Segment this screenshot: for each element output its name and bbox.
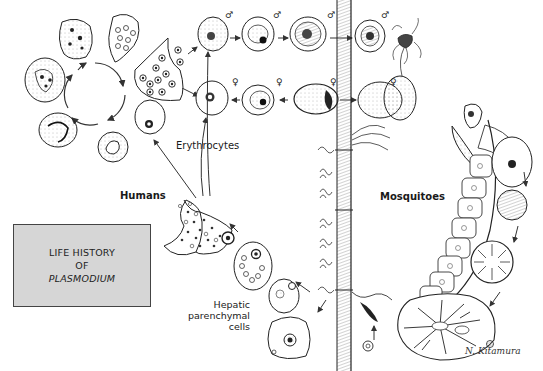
mosquito-stomach	[360, 48, 532, 360]
hepatic-label-line2: parenchymal	[186, 310, 250, 321]
erythrocytes-label: Erythrocytes	[176, 140, 239, 151]
male-symbol-4: ♂	[381, 10, 389, 20]
female-symbol-3: ♀	[330, 77, 337, 87]
hepatic-label-line3: cells	[186, 321, 250, 332]
erythrocytic-cycle	[25, 14, 139, 162]
artist-signature: N. Kitamura	[465, 346, 521, 356]
hepatic-label-line1: Hepatic	[186, 299, 250, 310]
female-symbol-2: ♀	[276, 77, 283, 87]
humans-label: Humans	[120, 190, 166, 201]
hepatic-cells-label: Hepatic parenchymal cells	[186, 299, 250, 332]
title-line-1: LIFE HISTORY	[49, 246, 115, 259]
title-box: LIFE HISTORY OF PLASMODIUM	[13, 224, 151, 307]
female-gametocyte-row	[196, 81, 402, 118]
gut-wall	[318, 0, 392, 371]
life-cycle-diagram: ♂ ♂ ♂ ♂ ♀ ♀ ♀ ♀	[0, 0, 543, 371]
male-gametocyte-row	[198, 17, 421, 64]
male-symbol-1: ♂	[225, 10, 233, 20]
female-symbol-1: ♀	[232, 77, 239, 87]
male-symbol-2: ♂	[273, 10, 281, 20]
title-line-2: OF	[75, 259, 88, 272]
title-line-3: PLASMODIUM	[49, 272, 116, 285]
merozoite-release	[135, 38, 198, 134]
mosquitoes-label: Mosquitoes	[380, 191, 445, 202]
male-symbol-3: ♂	[327, 10, 335, 20]
